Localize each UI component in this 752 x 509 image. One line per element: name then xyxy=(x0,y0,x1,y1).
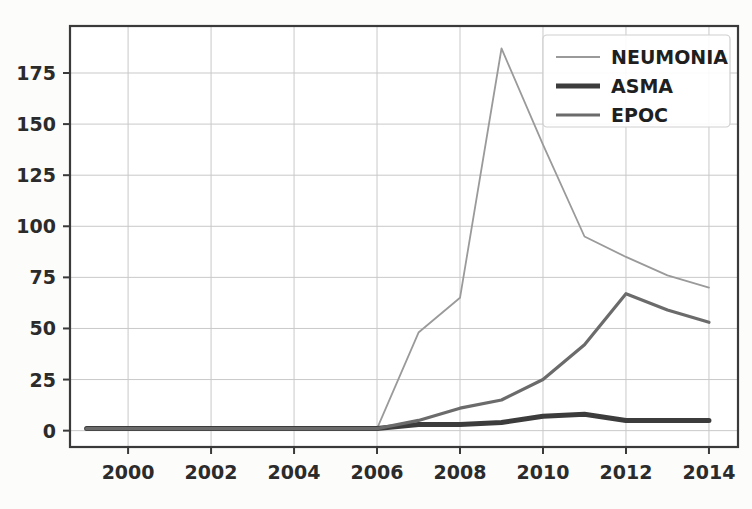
x-tick-label: 2006 xyxy=(351,461,404,483)
x-tick-label: 2002 xyxy=(185,461,238,483)
y-tick-label: 25 xyxy=(30,369,56,391)
x-tick-label: 2004 xyxy=(268,461,321,483)
legend-label-neumonia: NEUMONIA xyxy=(611,46,728,68)
y-tick-label: 50 xyxy=(30,317,56,339)
y-tick-label: 125 xyxy=(16,164,56,186)
legend-label-asma: ASMA xyxy=(611,75,673,97)
y-tick-label: 100 xyxy=(16,215,56,237)
x-tick-label: 2012 xyxy=(600,461,653,483)
x-tick-label: 2008 xyxy=(434,461,487,483)
legend-label-epoc: EPOC xyxy=(611,104,668,126)
chart-figure: 2000200220042006200820102012201402550751… xyxy=(0,0,752,509)
y-tick-label: 75 xyxy=(30,266,56,288)
line-chart: 2000200220042006200820102012201402550751… xyxy=(0,0,752,509)
x-tick-label: 2014 xyxy=(683,461,736,483)
y-tick-label: 0 xyxy=(43,420,56,442)
legend: NEUMONIAASMAEPOC xyxy=(543,35,730,127)
y-axis: 0255075100125150175 xyxy=(16,62,70,442)
y-tick-label: 150 xyxy=(16,113,56,135)
x-tick-label: 2000 xyxy=(102,461,155,483)
x-tick-label: 2010 xyxy=(517,461,570,483)
x-axis: 20002002200420062008201020122014 xyxy=(102,447,736,483)
y-tick-label: 175 xyxy=(16,62,56,84)
